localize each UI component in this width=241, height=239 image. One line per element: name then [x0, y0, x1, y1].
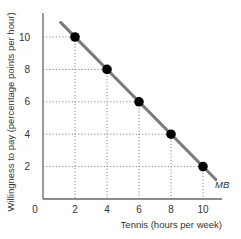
x-tick-label: 2	[72, 204, 78, 215]
y-axis-label: Willingness to pay (percentage points pe…	[5, 12, 16, 211]
x-tick-label: 4	[104, 204, 110, 215]
mb-curve-label: MB	[215, 179, 230, 190]
x-axis-label: Tennis (hours per week)	[121, 219, 222, 230]
x-tick-label: 0	[32, 204, 38, 215]
y-tick-labels: 246810	[19, 32, 31, 173]
y-tick-label: 2	[24, 161, 30, 172]
x-tick-label: 10	[197, 204, 209, 215]
data-point	[198, 162, 208, 172]
data-point	[70, 32, 80, 42]
data-point	[102, 65, 112, 75]
y-tick-label: 6	[24, 96, 30, 107]
y-tick-label: 8	[24, 64, 30, 75]
mb-chart: 246810 0246810 MB Tennis (hours per week…	[0, 0, 241, 239]
guide-lines	[43, 37, 203, 199]
data-point	[166, 129, 176, 139]
x-tick-label: 8	[168, 204, 174, 215]
x-tick-label: 6	[136, 204, 142, 215]
data-point	[134, 97, 144, 107]
y-tick-label: 4	[24, 129, 30, 140]
x-tick-labels: 0246810	[32, 204, 209, 215]
y-tick-label: 10	[19, 32, 31, 43]
